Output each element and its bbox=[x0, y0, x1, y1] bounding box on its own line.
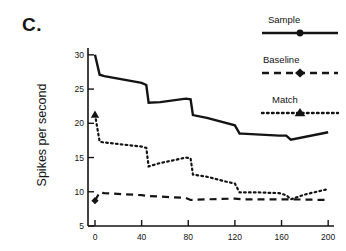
legend-key-sample bbox=[262, 30, 338, 37]
x-tick-label: 160 bbox=[274, 232, 288, 242]
y-tick-label: 5 bbox=[79, 221, 84, 231]
y-tick-label: 20 bbox=[75, 118, 85, 128]
data-series-layer bbox=[91, 55, 328, 204]
legend-keys bbox=[262, 30, 338, 117]
x-tick-label: 200 bbox=[321, 232, 335, 242]
series-match bbox=[91, 110, 328, 199]
x-tick-label: 120 bbox=[228, 232, 242, 242]
y-tick-label: 30 bbox=[75, 50, 85, 60]
legend-key-baseline bbox=[262, 68, 338, 77]
y-tick-label: 15 bbox=[75, 153, 85, 163]
x-tick-label: 0 bbox=[93, 232, 98, 242]
x-tick-marks bbox=[95, 220, 328, 226]
y-tick-labels: 51015202530 bbox=[75, 50, 85, 231]
y-tick-label: 10 bbox=[75, 187, 85, 197]
y-tick-label: 25 bbox=[75, 84, 85, 94]
chart-canvas: 51015202530 04080120160200 bbox=[0, 0, 346, 251]
series-sample bbox=[95, 55, 328, 140]
x-tick-label: 40 bbox=[137, 232, 147, 242]
legend-key-match bbox=[262, 108, 338, 116]
x-tick-label: 80 bbox=[184, 232, 194, 242]
x-tick-labels: 04080120160200 bbox=[93, 232, 336, 242]
figure-panel: C. Spikes per second Sample Baseline Mat… bbox=[0, 0, 346, 251]
